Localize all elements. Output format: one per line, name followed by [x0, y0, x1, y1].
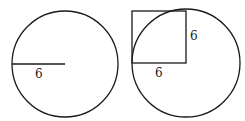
figure-circle-with-radius: 6	[12, 11, 118, 117]
square-side-label-horizontal: 6	[155, 66, 163, 80]
diagram-canvas: 6 6 6	[0, 0, 245, 121]
figure-circle-with-square: 6 6	[132, 9, 240, 117]
square-side-label-vertical: 6	[190, 29, 198, 43]
left-radius-label: 6	[35, 67, 43, 81]
inscribed-square	[132, 11, 186, 63]
